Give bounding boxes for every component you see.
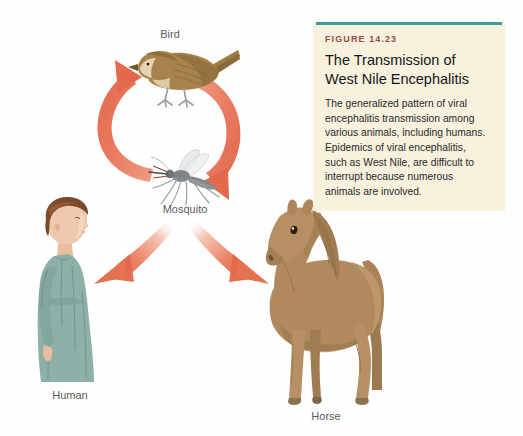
figure-caption-panel: FIGURE 14.23 The Transmission of West Ni… xyxy=(313,22,505,211)
label-mosquito: Mosquito xyxy=(148,203,222,215)
transmission-diagram: Bird xyxy=(0,0,313,436)
figure-caption-body: The generalized pattern of viral encepha… xyxy=(313,88,505,211)
label-bird: Bird xyxy=(140,28,200,40)
horse-illustration xyxy=(232,204,400,408)
figure-title: The Transmission of West Nile Encephalit… xyxy=(313,44,505,88)
human-illustration xyxy=(28,196,104,382)
bird-illustration xyxy=(128,42,240,108)
figure-page: Bird xyxy=(0,0,523,436)
label-human: Human xyxy=(38,389,102,401)
figure-number: FIGURE 14.23 xyxy=(313,25,505,44)
mosquito-illustration xyxy=(143,148,227,206)
label-horse: Horse xyxy=(296,410,356,422)
